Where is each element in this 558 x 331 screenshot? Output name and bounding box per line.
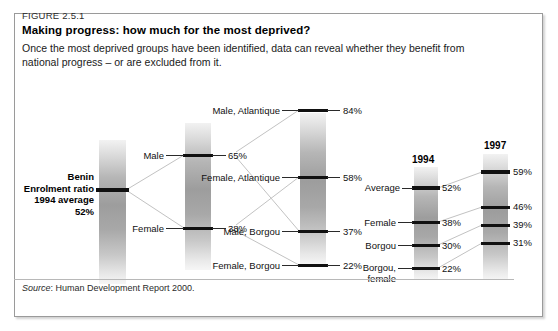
benin-label-line2: Enrolment ratio xyxy=(2,183,94,195)
benin-label-line3: 1994 average xyxy=(2,194,94,206)
tick-1994-average-52 xyxy=(412,186,440,190)
leader-male-atlantique xyxy=(282,110,299,111)
leader-value-58 xyxy=(327,177,340,178)
label-right-female: Female xyxy=(348,217,396,228)
tick-1997-46 xyxy=(481,206,510,209)
year-label-1997: 1997 xyxy=(484,140,506,151)
tick-female-borgou-22 xyxy=(298,264,328,267)
leader-1994-female xyxy=(398,222,413,223)
tick-1994-borgou-female-22 xyxy=(412,267,440,270)
leader-value-84 xyxy=(327,110,340,111)
value-1997-59: 59% xyxy=(513,166,532,177)
value-1997-39: 39% xyxy=(513,219,532,230)
leader-1994-average xyxy=(402,188,413,189)
figure-number: FIGURE 2.5.1 xyxy=(22,10,85,21)
label-female-atlantique: Female, Atlantique xyxy=(180,172,280,183)
tick-female-atlantique-58 xyxy=(298,176,328,179)
value-1997-46: 46% xyxy=(513,201,532,212)
figure-subtitle: Once the most deprived groups have been … xyxy=(22,41,492,69)
value-1994-38: 38% xyxy=(442,217,461,228)
value-1994-52: 52% xyxy=(442,182,461,193)
value-1994-30: 30% xyxy=(442,240,461,251)
bar-benin xyxy=(99,140,126,284)
source-line: Source: Human Development Report 2000. xyxy=(22,283,195,293)
leader-value-37 xyxy=(327,231,340,232)
leader-female-left xyxy=(166,228,184,229)
tick-male-atlantique-84 xyxy=(298,109,328,112)
leader-female-atlantique xyxy=(282,177,299,178)
label-borgou: Borgou xyxy=(348,240,396,251)
label-average: Average xyxy=(348,182,400,193)
value-male-65: 65% xyxy=(228,150,247,161)
tick-benin-52 xyxy=(96,188,129,192)
leader-1994-borgou xyxy=(398,245,413,246)
leader-1994-borgou-female xyxy=(398,268,413,269)
source-divider xyxy=(14,279,514,280)
label-borgou-female: Borgou, female xyxy=(340,263,396,284)
bar-region-sex xyxy=(300,113,326,265)
leader-value-22 xyxy=(327,265,340,266)
value-1994-22: 22% xyxy=(442,263,461,274)
tick-1994-borgou-30 xyxy=(412,244,440,247)
figure-content: FIGURE 2.5.1 Making progress: how much f… xyxy=(0,0,558,331)
tick-male-borgou-37 xyxy=(298,230,328,233)
bar-sex xyxy=(185,123,211,270)
label-male: Male xyxy=(120,150,164,161)
label-male-borgou: Male, Borgou xyxy=(200,226,280,237)
label-female: Female xyxy=(110,223,164,234)
leader-male-left xyxy=(166,155,184,156)
tick-1997-39 xyxy=(481,224,510,227)
label-female-borgou: Female, Borgou xyxy=(190,260,280,271)
label-male-atlantique: Male, Atlantique xyxy=(190,105,280,116)
label-borgou-female-line1: Borgou, xyxy=(340,263,396,274)
tick-1997-31 xyxy=(481,242,510,245)
leader-male-borgou xyxy=(282,231,299,232)
source-text: : Human Development Report 2000. xyxy=(51,283,195,293)
tick-male-65 xyxy=(183,154,213,157)
leader-male-right xyxy=(212,155,226,156)
tick-1994-female-38 xyxy=(412,221,440,224)
tick-1997-59 xyxy=(481,170,510,174)
source-prefix: Source xyxy=(22,283,51,293)
year-label-1994: 1994 xyxy=(412,154,434,165)
benin-label-line4: 52% xyxy=(2,206,94,218)
benin-label: Benin Enrolment ratio 1994 average 52% xyxy=(2,171,94,217)
value-male-atlantique-84: 84% xyxy=(343,105,362,116)
benin-label-line1: Benin xyxy=(2,171,94,183)
leader-female-borgou xyxy=(282,265,299,266)
value-1997-31: 31% xyxy=(513,237,532,248)
figure-title: Making progress: how much for the most d… xyxy=(22,24,311,36)
